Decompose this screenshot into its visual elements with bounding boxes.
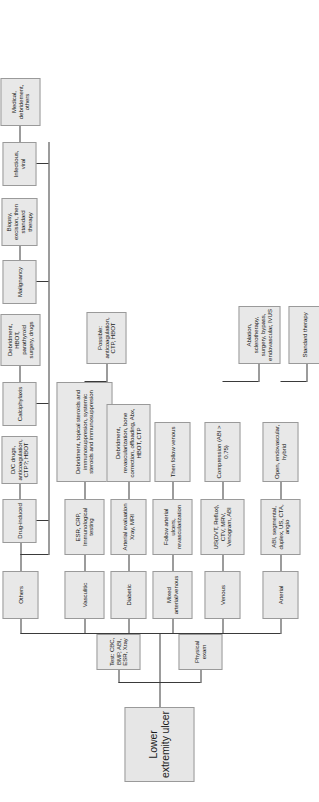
connector-spine-to-vasculitic (84, 619, 85, 634)
connector-calci-to-tx (19, 366, 20, 382)
connector-others-up-malig (36, 281, 48, 282)
mixed-evaluation-label: Follow arterial ulcers, revascularizatio… (162, 502, 182, 552)
node-others-drug-induced[interactable]: Drug-induced (2, 499, 36, 543)
connector-spine-to-arterial (280, 619, 281, 634)
connector-venous-tx (222, 482, 223, 499)
node-diabetic-evaluation[interactable]: Arterial evaluation Xray, MRI (110, 499, 146, 555)
node-others-drug-induced-treatment[interactable]: D/C drugs, anticoagulation, CTP?; HBOT (1, 436, 37, 484)
node-others-calciphylaxis-treatment[interactable]: Debridment, HBOT, parathyroid surgery, d… (0, 314, 40, 366)
connector-arterial-tx (280, 482, 281, 499)
others-malignancy-treatment-label: Biopsy, excision, then standard therapy (5, 201, 32, 243)
venous-evaluation-label: US(DVT, Reflux), CTV, MRV, Venogram, ABI (212, 502, 232, 552)
venous-label: Venous (219, 574, 226, 616)
node-workup-physical-exam[interactable]: Physical exam (178, 634, 222, 670)
node-workup-tests[interactable]: Test: CBC, BMP, ABI, ESR, Xray (96, 634, 140, 670)
arterial-treatment-1-label: Open, endovascular, hybrid (273, 425, 287, 479)
connector-others-bus-top (48, 142, 49, 555)
arterial-treatment-2-label: Standard therapy (301, 309, 308, 361)
node-vasculitic-evaluation[interactable]: ESR, CRP, Immunological testing (64, 499, 104, 555)
mixed-label: Mixed arterial/venous (165, 574, 179, 616)
connector-others-up-infect (36, 163, 48, 164)
connector-diabetic-tx (128, 482, 129, 499)
diabetic-evaluation-label: Arterial evaluation Xray, MRI (121, 502, 135, 552)
node-venous-treatment-2[interactable]: Ablation, sclerotherapy, surgery, bypass… (238, 306, 280, 364)
node-arterial-evaluation[interactable]: ABI, segmental, duplex, US, CTA, angio (260, 499, 300, 555)
node-category-mixed[interactable]: Mixed arterial/venous (152, 571, 192, 619)
connector-spine-to-diabetic (128, 619, 129, 634)
node-mixed-evaluation[interactable]: Follow arterial ulcers, revascularizatio… (152, 499, 192, 555)
node-others-infectious[interactable]: Infectious, viral (2, 142, 36, 186)
others-malignancy-label: Malignancy (16, 263, 23, 301)
connector-vasculitic-eval (84, 555, 85, 571)
vasculitic-evaluation-label: ESR, CRP, Immunological testing (74, 502, 94, 552)
connector-drug-to-tx (19, 484, 20, 499)
connector-venous-tx2-h (258, 364, 259, 382)
workup-exam-label: Physical exam (193, 637, 207, 667)
connector-spine-to-mixed (172, 619, 173, 634)
connector-others-out (20, 555, 21, 571)
vasculitic-treatment-2-label: Possible: anticoagulation, CTP, HBOT (96, 315, 116, 361)
node-vasculitic-treatment-1[interactable]: Debridment, topical steroids and immunos… (56, 382, 112, 482)
connector-mixed-eval (172, 555, 173, 571)
root-label: Lower extremity ulcer (147, 710, 171, 779)
connector-spine-entry (159, 634, 160, 683)
node-category-others[interactable]: Others (2, 571, 38, 619)
node-others-malignancy-treatment[interactable]: Biopsy, excision, then standard therapy (1, 198, 37, 246)
diagram-canvas: Lower extremity ulcer Test: CBC, BMP, AB… (0, 0, 319, 802)
connector-others-drop-from-others (20, 554, 48, 555)
connector-venous-eval (222, 555, 223, 571)
connector-vasculitic-tx (84, 482, 85, 499)
diabetic-treatment-1-label: Debridment, revascularization, bone corr… (114, 407, 141, 479)
connector-spine-to-venous (222, 619, 223, 634)
vasculitic-treatment-1-label: Debridment, topical steroids and immunos… (74, 385, 94, 479)
connector-root-stem (159, 683, 160, 707)
node-vasculitic-treatment-2[interactable]: Possible: anticoagulation, CTP, HBOT (86, 312, 126, 364)
node-diabetic-treatment-1[interactable]: Debridment, revascularization, bone corr… (106, 404, 150, 482)
node-category-arterial[interactable]: Arterial (262, 571, 298, 619)
node-category-vasculitic[interactable]: Vasculitic (64, 571, 104, 619)
root-node-lower-extremity-ulcer[interactable]: Lower extremity ulcer (124, 707, 194, 782)
connector-others-up-calci (36, 403, 48, 404)
connector-others-up-drug (36, 520, 48, 521)
node-mixed-treatment-1[interactable]: Then follow venous (154, 422, 190, 482)
vasculitic-label: Vasculitic (81, 574, 88, 616)
flowchart-rotated-group: Lower extremity ulcer Test: CBC, BMP, AB… (0, 0, 319, 802)
others-drug-induced-label: Drug-induced (16, 502, 23, 540)
node-arterial-treatment-2[interactable]: Standard therapy (288, 306, 319, 364)
node-others-calciphylaxis[interactable]: Calciphylaxis (2, 382, 36, 426)
connector-mixed-tx (172, 482, 173, 499)
connector-main-spine (20, 633, 280, 634)
venous-treatment-2-label: Ablation, sclerotherapy, surgery, bypass… (245, 309, 272, 361)
node-venous-evaluation[interactable]: US(DVT, Reflux), CTV, MRV, Venogram, ABI (200, 499, 244, 555)
others-calciphylaxis-treatment-label: Debridment, HBOT, parathyroid surgery, d… (6, 317, 33, 363)
arterial-label: Arterial (277, 574, 284, 616)
others-infectious-label: Infectious, viral (12, 145, 26, 183)
connector-arterial-tx2-h (306, 364, 307, 382)
connector-workup-exam (200, 670, 201, 683)
others-drug-induced-treatment-label: D/C drugs, anticoagulation, CTP?; HBOT (9, 439, 29, 481)
workup-tests-label: Test: CBC, BMP, ABI, ESR, Xray (108, 637, 128, 667)
connector-venous-tx2-v (222, 381, 258, 382)
others-label: Others (17, 574, 24, 616)
node-others-infectious-treatment[interactable]: Medical, debridement, others (0, 78, 40, 126)
node-arterial-treatment-1[interactable]: Open, endovascular, hybrid (262, 422, 298, 482)
connector-arterial-eval (280, 555, 281, 571)
node-others-malignancy[interactable]: Malignancy (2, 260, 36, 304)
connector-vasculitic-tx2-h (106, 364, 107, 382)
connector-arterial-tx2-v (280, 381, 306, 382)
mixed-treatment-1-label: Then follow venous (169, 425, 176, 479)
others-calciphylaxis-label: Calciphylaxis (16, 385, 23, 423)
node-venous-treatment-1[interactable]: Compression (ABI > 0.75) (204, 422, 240, 482)
venous-treatment-1-label: Compression (ABI > 0.75) (215, 425, 229, 479)
connector-infect-to-tx (19, 126, 20, 142)
connector-spine-to-others (20, 619, 21, 634)
node-category-venous[interactable]: Venous (204, 571, 240, 619)
connector-diabetic-eval (128, 555, 129, 571)
others-infectious-treatment-label: Medical, debridement, others (10, 81, 30, 123)
connector-malig-to-tx (19, 246, 20, 260)
node-category-diabetic[interactable]: Diabetic (110, 571, 146, 619)
arterial-evaluation-label: ABI, segmental, duplex, US, CTA, angio (270, 502, 290, 552)
connector-workup-tests (118, 670, 119, 683)
diabetic-label: Diabetic (125, 574, 132, 616)
